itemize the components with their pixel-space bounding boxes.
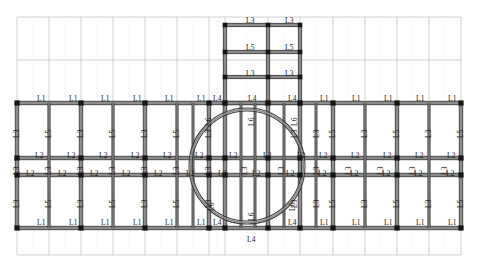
beam-label-L3: L3 (141, 199, 149, 208)
main-beam-vertical (266, 103, 269, 228)
beam-label-L2: L2 (319, 152, 328, 160)
beam-label-L4: L4 (248, 95, 257, 103)
column-node (297, 172, 302, 177)
beam-label-L2: L2 (415, 152, 424, 160)
beam-label-L4: L4 (288, 95, 297, 103)
tower-beam-vertical (298, 25, 301, 103)
tower-beam-label-L3: L3 (285, 17, 294, 25)
beam-label-L2: L2 (447, 152, 456, 160)
beam-label-L2: L2 (286, 170, 295, 178)
tower-beam-label-L5: L5 (246, 44, 255, 52)
beam-label-L1: L1 (416, 219, 425, 227)
column-node (265, 225, 270, 230)
column-node (78, 100, 83, 105)
beam-label-L1: L1 (133, 219, 142, 227)
beam-label-L2: L2 (131, 152, 140, 160)
column-node (330, 172, 335, 177)
column-node (14, 155, 19, 160)
beam-label-L3: L3 (313, 199, 321, 208)
beam-label-L4: L4 (213, 95, 222, 103)
tower-beam-label-L5: L5 (285, 44, 294, 52)
beam-label-L3: L3 (77, 166, 85, 175)
beam-label-L5: L5 (109, 199, 117, 208)
beam-label-L3: L3 (205, 129, 213, 138)
beam-label-L2: L2 (186, 170, 195, 178)
beam-label-L3: L3 (109, 166, 117, 175)
beam-label-L3: L3 (291, 129, 299, 138)
beam-label-L1: L1 (101, 219, 110, 227)
column-node (78, 155, 83, 160)
beam-label-L6: L6 (248, 212, 256, 221)
beam-label-L1: L1 (384, 219, 393, 227)
beam-label-L6: L6 (289, 202, 297, 211)
beam-label-L1: L1 (197, 219, 206, 227)
column-node (223, 75, 228, 80)
beam-label-L3: L3 (241, 166, 249, 175)
main-beam-vertical (459, 103, 462, 228)
column-node (206, 225, 211, 230)
column-node (266, 50, 271, 55)
column-node (14, 225, 19, 230)
tower-beam-vertical (223, 25, 226, 103)
column-node (298, 50, 303, 55)
column-node (458, 100, 463, 105)
column-node (206, 155, 211, 160)
beam-label-L5: L5 (457, 199, 465, 208)
beam-label-L5: L5 (109, 129, 117, 138)
column-node (223, 101, 228, 106)
beam-label-L3: L3 (77, 199, 85, 208)
beam-label-L2: L2 (67, 152, 76, 160)
beam-label-L6: L6 (208, 202, 216, 211)
beam-label-L1: L1 (101, 95, 110, 103)
beam-label-L5: L5 (457, 129, 465, 138)
main-beam-vertical (395, 103, 398, 228)
beam-label-L1: L1 (448, 219, 457, 227)
column-node (330, 155, 335, 160)
column-node (206, 100, 211, 105)
beam-label-L3: L3 (278, 166, 286, 175)
main-beam-vertical (223, 103, 226, 228)
column-node (142, 100, 147, 105)
beam-label-L5: L5 (45, 129, 53, 138)
beam-label-L3: L3 (13, 199, 21, 208)
beam-label-L2: L2 (229, 152, 238, 160)
beam-label-L2: L2 (195, 152, 204, 160)
beam-label-L2: L2 (99, 152, 108, 160)
beam-label-L1: L1 (197, 95, 206, 103)
beam-label-L3: L3 (141, 166, 149, 175)
beam-label-L5: L5 (173, 199, 181, 208)
beam-label-L1: L1 (320, 219, 329, 227)
main-beam-vertical (331, 103, 334, 228)
beam-label-L3: L3 (45, 166, 53, 175)
beam-label-L1: L1 (448, 95, 457, 103)
column-node (266, 23, 271, 28)
column-node (330, 100, 335, 105)
beam-label-L3: L3 (313, 166, 321, 175)
column-node (223, 50, 228, 55)
beam-label-L2: L2 (58, 170, 67, 178)
column-node (298, 23, 303, 28)
beam-label-L5: L5 (173, 129, 181, 138)
beam-label-L2: L2 (26, 170, 35, 178)
beam-label-L3: L3 (141, 129, 149, 138)
tower-beam-label-L3: L3 (285, 70, 294, 78)
beam-label-L5: L5 (393, 199, 401, 208)
beam-label-L3: L3 (425, 129, 433, 138)
column-node (394, 155, 399, 160)
beam-label-L3: L3 (173, 166, 181, 175)
beam-label-L4: L4 (247, 236, 256, 244)
beam-label-L3: L3 (361, 199, 369, 208)
beam-label-L1: L1 (320, 95, 329, 103)
tower-beam-label-L3: L3 (246, 17, 255, 25)
beam-label-L4: L4 (213, 219, 222, 227)
beam-label-L5: L5 (45, 199, 53, 208)
column-node (394, 225, 399, 230)
column-node (222, 225, 227, 230)
beam-label-L3: L3 (361, 129, 369, 138)
column-node (297, 225, 302, 230)
beam-label-L3: L3 (13, 166, 21, 175)
column-node (394, 172, 399, 177)
column-node (266, 75, 271, 80)
column-node (222, 155, 227, 160)
beam-label-L1: L1 (133, 95, 142, 103)
